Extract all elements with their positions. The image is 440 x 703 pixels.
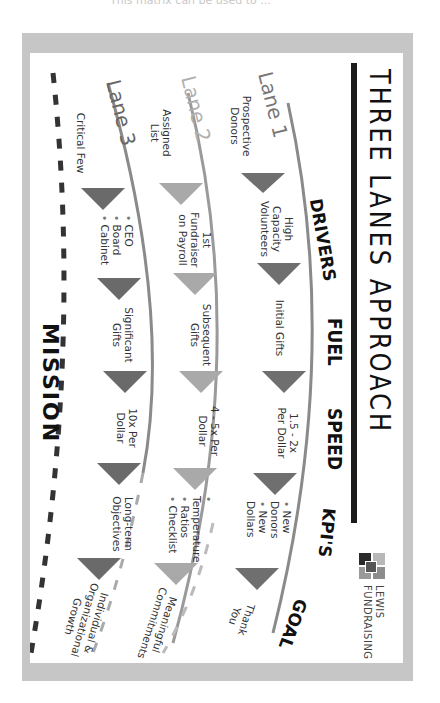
lane2-kpi-item: Checklist (167, 496, 179, 562)
lane1-drivers: High Capacity Volunteers (259, 198, 295, 260)
title-underline-bar (351, 63, 357, 523)
logo-line-1: LEWIS (373, 585, 385, 660)
lane3-driver-item: CEO (123, 215, 135, 275)
lane2-speed: 4 - 5x Per Dollar (197, 401, 221, 461)
logo-line-2: FUNDRAISING (361, 585, 373, 660)
page-title: THREE LANES APPROACH (363, 69, 395, 434)
lane1-kpi-item: New Donors (269, 501, 293, 563)
lewis-fundraising-logo: LEWIS FUNDRAISING (349, 553, 389, 663)
lane2-kpi-item: Temperature (191, 496, 215, 562)
infographic-frame: THREE LANES APPROACH LEWIS FUNDRAISING D… (22, 33, 413, 681)
lane2-kpi-item: Ratios (179, 496, 191, 562)
lane3-driver-item: Cabinet (99, 215, 111, 275)
lane1-fuel: Initial Gifts (274, 293, 286, 363)
lane3-speed: 10x Per Dollar (115, 398, 139, 458)
lane1-kpis: New Donors New Dollars (245, 501, 293, 563)
mission-label: MISSION (38, 323, 63, 443)
infographic-canvas: THREE LANES APPROACH LEWIS FUNDRAISING D… (30, 53, 403, 663)
lane1-source: Prospective Donors (229, 91, 253, 161)
column-heading-speed: SPEED (324, 408, 346, 470)
column-heading-fuel: FUEL (324, 318, 346, 366)
lane1-speed: 1.5 - 2x Per Dollar (276, 403, 300, 463)
infographic-rotated-stage: THREE LANES APPROACH LEWIS FUNDRAISING D… (22, 33, 413, 681)
lane2-fuel: Subsequent Gifts (189, 303, 213, 367)
lane2-source: Assigned List (149, 103, 173, 163)
lane1-kpi-item: New Dollars (245, 501, 269, 563)
lane3-kpis: Long-term Objectives (111, 491, 135, 557)
lane3-drivers: CEO Board Cabinet (99, 215, 135, 275)
cut-off-caption: This matrix can be used to ... (110, 0, 320, 4)
logo-grid-icon (359, 553, 385, 579)
lane3-driver-item: Board (111, 215, 123, 275)
lane2-kpis: Temperature Ratios Checklist (167, 496, 215, 562)
lane3-source: Critical Few (75, 108, 87, 178)
lane2-drivers: 1st Fundraiser on Payroll (177, 208, 213, 272)
lane3-fuel: Significant Gifts (111, 305, 135, 365)
